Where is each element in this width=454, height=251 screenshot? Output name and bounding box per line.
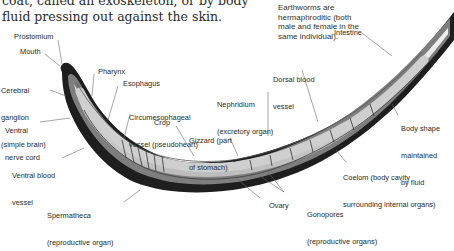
label-line: Ventral <box>5 126 40 135</box>
label-line: vessel (pseudoheart) <box>129 140 198 149</box>
intro-line-2: fluid pressing out against the skin. <box>2 9 249 25</box>
label-line: Cerebral <box>1 86 46 95</box>
label-intestine: Intestine <box>334 28 362 37</box>
label-spermatheca: Spermatheca (reproductive organ) <box>47 193 114 251</box>
label-crop: Crop <box>154 118 170 127</box>
label-ovary: Ovary <box>269 201 289 210</box>
label-pharynx: Pharynx <box>98 67 125 76</box>
label-circumesophageal-vessel: Circumesophageal vessel (pseudoheart) <box>129 95 198 167</box>
intro-paragraph: coat, called an exoskeleton, or by body … <box>2 0 249 25</box>
label-esophagus: Esophagus <box>123 79 160 88</box>
label-gonopores: Gonopores (reproductive organs) <box>307 192 377 251</box>
intro-line-1: coat, called an exoskeleton, or by body <box>2 0 249 9</box>
label-line: vessel <box>273 102 315 111</box>
label-prostomium: Prostomium <box>14 32 53 41</box>
label-line: Gonopores <box>307 210 377 219</box>
label-line: Nephridium <box>217 100 273 109</box>
label-line: Dorsal blood <box>273 75 315 84</box>
label-line: of stomach) <box>189 163 232 172</box>
label-line: Spermatheca <box>47 211 114 220</box>
label-line: Coelom (body cavity <box>343 173 435 182</box>
label-line: (excretory organ) <box>217 127 273 136</box>
label-line: (reproductive organs) <box>307 237 377 246</box>
note-line-1: Earthworms are <box>278 3 373 13</box>
label-mouth: Mouth <box>20 47 41 56</box>
label-line: Body shape <box>401 124 440 133</box>
note-line-2: hermaphroditic (both <box>278 13 373 23</box>
label-line: Ventral blood <box>12 171 55 180</box>
label-nephridium: Nephridium (excretory organ) <box>217 82 273 154</box>
label-line: (reproductive organ) <box>47 238 114 247</box>
label-dorsal-blood-vessel: Dorsal blood vessel <box>273 57 315 129</box>
